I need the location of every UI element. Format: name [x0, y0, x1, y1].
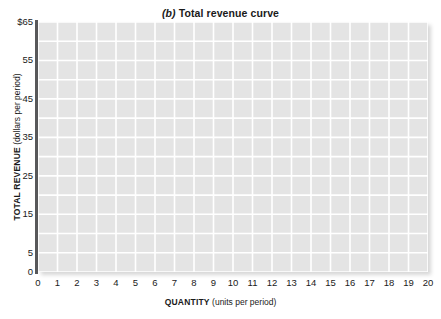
y-tick-label: 15: [1, 209, 33, 219]
chart-title: (b) Total revenue curve: [0, 7, 441, 19]
chart-figure: (b) Total revenue curve TOTAL REVENUE (d…: [0, 0, 441, 319]
chart-title-rest: Total revenue curve: [179, 7, 279, 19]
x-tick-label: 20: [416, 277, 440, 288]
y-tick-label: 5: [1, 248, 33, 258]
y-tick-label: 25: [1, 171, 33, 181]
grid-lines: [38, 22, 428, 272]
plot-area: [38, 22, 428, 272]
x-axis-label-light: (units per period): [212, 297, 276, 307]
y-tick-label: 0: [1, 267, 33, 277]
y-axis-tick-labels: $65554535251550: [0, 0, 33, 319]
y-tick-label: 55: [1, 55, 33, 65]
y-tick-label: 35: [1, 132, 33, 142]
chart-title-prefix: (b): [162, 7, 176, 19]
x-axis-label: QUANTITY (units per period): [0, 297, 441, 307]
x-axis-label-strong: QUANTITY: [165, 297, 210, 307]
y-tick-label: $65: [1, 17, 33, 27]
y-tick-label: 45: [1, 94, 33, 104]
x-axis-tick-labels: 01234567891011121314151617181920: [0, 277, 441, 291]
